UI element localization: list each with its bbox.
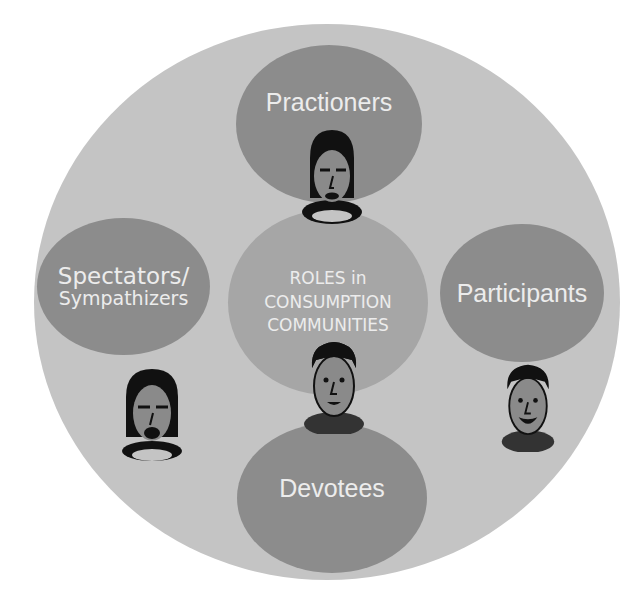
role-spectators: Spectators/ Sympathizers — [37, 218, 210, 355]
person-female-icon — [120, 367, 184, 463]
role-label: Devotees — [279, 475, 385, 501]
role-label: Participants — [457, 280, 588, 306]
role-participants: Participants — [440, 224, 604, 362]
person-male-smiling-icon — [498, 360, 558, 452]
person-male-icon — [302, 338, 366, 434]
role-devotees: Devotees — [237, 423, 427, 573]
person-female-icon — [300, 128, 364, 224]
center-line-2: CONSUMPTION — [264, 291, 392, 315]
role-label: Practioners — [266, 89, 392, 115]
role-label-line-2: Sympathizers — [58, 289, 189, 309]
center-line-3: COMMUNITIES — [264, 314, 392, 338]
center-line-1: ROLES in — [264, 267, 392, 291]
role-label-line-1: Spectators/ — [58, 264, 189, 288]
